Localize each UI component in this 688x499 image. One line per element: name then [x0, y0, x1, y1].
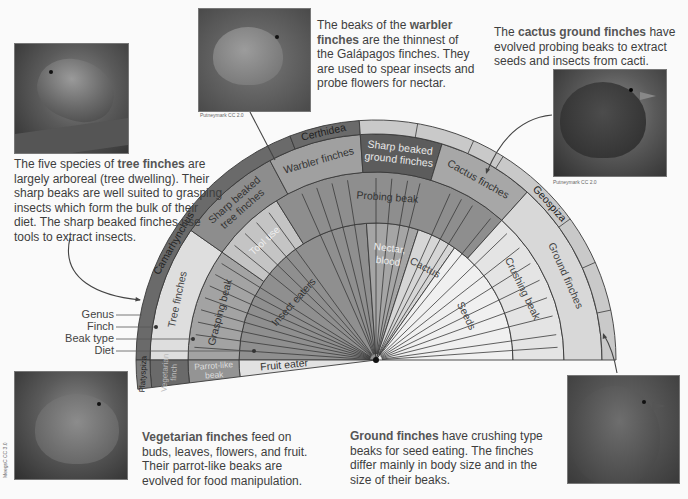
legend-finch: Finch	[34, 320, 114, 332]
caption-ground-finches: Ground finches have crushing type beaks …	[350, 429, 560, 487]
caption-cactus-finches: The cactus ground finches have evolved p…	[494, 25, 684, 69]
caption-tree-finches: The five species of tree finches are lar…	[14, 157, 224, 244]
fan-center-dot	[373, 357, 379, 363]
caption-warbler-finches: The beaks of the warbler finches are the…	[317, 18, 477, 91]
tree-finch-arrow	[68, 238, 140, 300]
legend-leader-dot	[252, 349, 256, 353]
finch-label-vegetarian-finch-2: finch	[169, 364, 179, 381]
beak-label-parrot-like-beak-2: beak	[205, 369, 225, 380]
caption-vegetarian-finches: Vegetarian finches feed on buds, leaves,…	[142, 430, 312, 488]
legend-leader-dot	[154, 325, 158, 329]
legend-beak-type: Beak type	[34, 332, 114, 344]
arrow-head-icon	[135, 297, 141, 302]
legend-leader-dot	[191, 337, 195, 341]
legend-diet: Diet	[34, 344, 114, 356]
genus-label-platyspiza: Platyspiza	[138, 355, 149, 392]
legend-genus: Genus	[34, 308, 114, 320]
